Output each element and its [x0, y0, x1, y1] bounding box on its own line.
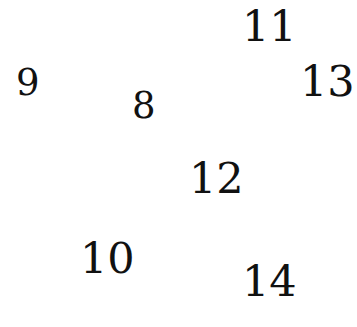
number-label-8: 8	[132, 87, 156, 124]
number-label-13: 13	[300, 60, 355, 103]
scatter-label-canvas: 119138121014	[0, 0, 357, 327]
number-label-12: 12	[189, 157, 244, 200]
number-label-11: 11	[242, 5, 297, 48]
number-label-10: 10	[80, 237, 135, 280]
number-label-9: 9	[16, 64, 40, 101]
number-label-14: 14	[242, 260, 297, 303]
